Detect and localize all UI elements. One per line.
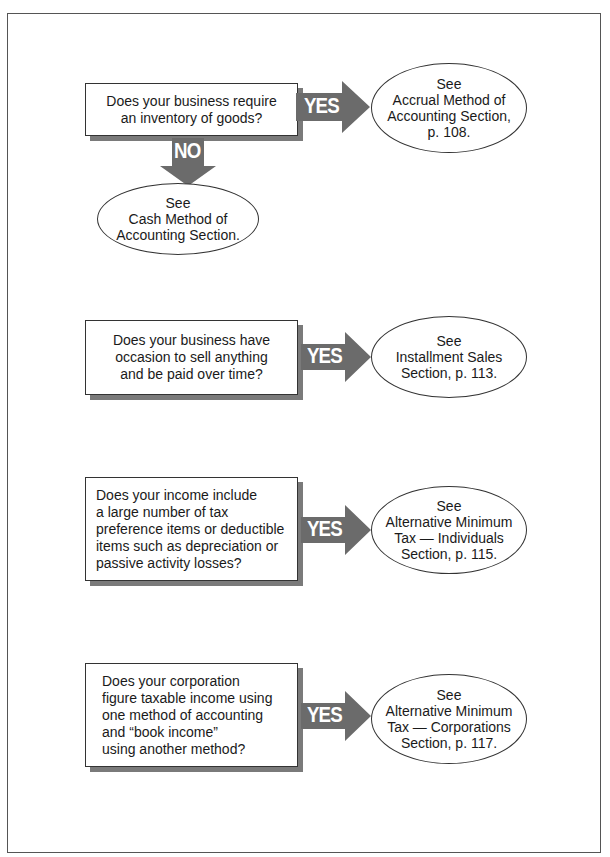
target-line: See — [437, 687, 462, 703]
question-line: one method of accounting — [102, 707, 283, 724]
target-line: Accounting Section, — [387, 108, 511, 124]
target-line: Section, p. 117. — [401, 735, 497, 751]
target-line: Alternative Minimum — [386, 514, 513, 530]
yes-label: YES — [307, 702, 342, 728]
target-line: Alternative Minimum — [386, 703, 513, 719]
target-line: Accrual Method of — [393, 92, 506, 108]
target-line: See — [166, 195, 191, 211]
yes-arrow-icon: YES — [296, 81, 372, 133]
target-line: Installment Sales — [396, 349, 503, 365]
target-amt-individuals: See Alternative Minimum Tax — Individual… — [371, 486, 527, 574]
yes-label: YES — [307, 343, 342, 369]
target-line: See — [437, 76, 462, 92]
target-line: Section, p. 115. — [401, 546, 497, 562]
target-line: See — [437, 498, 462, 514]
question-box-amt-individuals: Does your income include a large number … — [85, 477, 298, 581]
question-line: items such as depreciation or — [96, 538, 283, 555]
no-label: NO — [174, 138, 200, 164]
target-amt-corporations: See Alternative Minimum Tax — Corporatio… — [371, 674, 527, 764]
question-box-inventory: Does your business require an inventory … — [85, 83, 298, 136]
question-line: passive activity losses? — [96, 555, 283, 572]
question-line: using another method? — [102, 741, 283, 758]
question-box-amt-corporations: Does your corporation figure taxable inc… — [85, 663, 298, 767]
no-arrow-icon: NO — [160, 138, 216, 186]
yes-arrow-icon: YES — [301, 505, 373, 555]
question-line: preference items or deductible — [96, 521, 283, 538]
question-line: a large number of tax — [96, 504, 283, 521]
yes-label: YES — [307, 516, 342, 542]
yes-label: YES — [304, 93, 339, 119]
target-accrual-method: See Accrual Method of Accounting Section… — [371, 63, 527, 153]
question-line: an inventory of goods? — [121, 110, 263, 127]
question-box-installment: Does your business have occasion to sell… — [85, 320, 298, 395]
target-line: See — [437, 333, 462, 349]
question-line: Does your income include — [96, 487, 283, 504]
question-line: and “book income” — [102, 724, 283, 741]
target-cash-method: See Cash Method of Accounting Section. — [97, 183, 259, 255]
question-line: occasion to sell anything — [115, 349, 268, 366]
target-line: Cash Method of — [129, 211, 228, 227]
target-line: Tax — Corporations — [387, 719, 511, 735]
question-line: figure taxable income using — [102, 690, 283, 707]
question-line: Does your business have — [113, 332, 270, 349]
yes-arrow-icon: YES — [301, 332, 373, 382]
target-installment-sales: See Installment Sales Section, p. 113. — [371, 316, 527, 398]
question-line: Does your corporation — [102, 673, 283, 690]
target-line: p. 108. — [428, 124, 471, 140]
target-line: Accounting Section. — [116, 227, 240, 243]
target-line: Section, p. 113. — [401, 365, 497, 381]
question-line: and be paid over time? — [120, 366, 262, 383]
yes-arrow-icon: YES — [301, 691, 373, 741]
target-line: Tax — Individuals — [394, 530, 504, 546]
question-line: Does your business require — [106, 93, 276, 110]
